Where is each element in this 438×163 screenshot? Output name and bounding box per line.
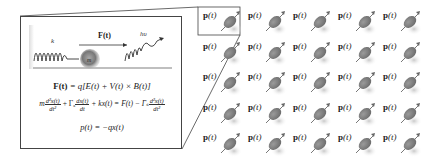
dipole-cell: p(t) bbox=[203, 38, 248, 68]
dipole-icon bbox=[350, 68, 380, 98]
dipole-cell: p(t) bbox=[383, 38, 428, 68]
dipole-icon bbox=[260, 7, 290, 37]
dipole-icon bbox=[215, 129, 245, 159]
mass-label: m bbox=[87, 57, 92, 63]
dipole-cell: p(t) bbox=[338, 68, 383, 98]
photon-wave-icon bbox=[125, 39, 161, 61]
dipole-icon bbox=[260, 68, 290, 98]
dipole-cell: p(t) bbox=[293, 99, 338, 129]
dipole-icon bbox=[395, 99, 425, 129]
dipole-cell: p(t) bbox=[248, 7, 293, 37]
dipole-icon bbox=[305, 38, 335, 68]
dipole-icon bbox=[260, 129, 290, 159]
dipole-cell: p(t) bbox=[293, 129, 338, 159]
dipole-cell: p(t) bbox=[203, 7, 248, 37]
dipole-cell: p(t) bbox=[203, 99, 248, 129]
force-label: F(t) bbox=[98, 31, 111, 40]
equation-of-motion: md²x(t)dt² + Γₐdx(t)dt + kx(t) = F(t) − … bbox=[21, 97, 183, 112]
dipole-icon bbox=[350, 99, 380, 129]
dipole-icon bbox=[260, 38, 290, 68]
dipole-cell: p(t) bbox=[248, 68, 293, 98]
spring-icon bbox=[34, 53, 79, 61]
dipole-icon bbox=[395, 129, 425, 159]
dipole-icon bbox=[215, 99, 245, 129]
dipole-cell: p(t) bbox=[338, 7, 383, 37]
dipole-cell: p(t) bbox=[248, 129, 293, 159]
dipole-icon bbox=[350, 129, 380, 159]
dipole-cell: p(t) bbox=[203, 68, 248, 98]
dipole-grid: p(t)p(t)p(t)p(t)p(t)p(t)p(t)p(t)p(t)p(t)… bbox=[203, 7, 438, 163]
dipole-icon bbox=[305, 7, 335, 37]
dipole-icon bbox=[305, 99, 335, 129]
dipole-cell: p(t) bbox=[293, 68, 338, 98]
dipole-icon bbox=[305, 129, 335, 159]
dipole-cell: p(t) bbox=[338, 129, 383, 159]
spring-constant-label: k bbox=[51, 37, 55, 45]
wall bbox=[29, 25, 34, 69]
dipole-cell: p(t) bbox=[383, 7, 428, 37]
dipole-icon bbox=[395, 7, 425, 37]
dipole-icon bbox=[260, 99, 290, 129]
dipole-cell: p(t) bbox=[383, 99, 428, 129]
dipole-icon bbox=[215, 38, 245, 68]
dipole-icon bbox=[215, 7, 245, 37]
callout-panel: k m F(t) hυ F(t) = q[E(t) + V(t) × B(t)]… bbox=[20, 16, 182, 149]
dipole-cell: p(t) bbox=[248, 99, 293, 129]
dipole-cell: p(t) bbox=[338, 38, 383, 68]
spring-mass-scene: k m F(t) hυ bbox=[27, 21, 177, 73]
dipole-cell: p(t) bbox=[293, 38, 338, 68]
dipole-icon bbox=[215, 68, 245, 98]
dipole-cell: p(t) bbox=[293, 7, 338, 37]
dipole-cell: p(t) bbox=[248, 38, 293, 68]
dipole-cell: p(t) bbox=[383, 68, 428, 98]
photon-label: hυ bbox=[140, 30, 147, 38]
dipole-icon bbox=[395, 38, 425, 68]
lorentz-force-equation: F(t) = q[E(t) + V(t) × B(t)] bbox=[21, 81, 183, 91]
dipole-icon bbox=[350, 38, 380, 68]
dipole-icon bbox=[395, 68, 425, 98]
dipole-icon bbox=[305, 68, 335, 98]
dipole-moment-equation: p(t) = −qx(t) bbox=[21, 123, 183, 132]
dipole-cell: p(t) bbox=[338, 99, 383, 129]
dipole-icon bbox=[350, 7, 380, 37]
dipole-cell: p(t) bbox=[203, 129, 248, 159]
dipole-cell: p(t) bbox=[383, 129, 428, 159]
